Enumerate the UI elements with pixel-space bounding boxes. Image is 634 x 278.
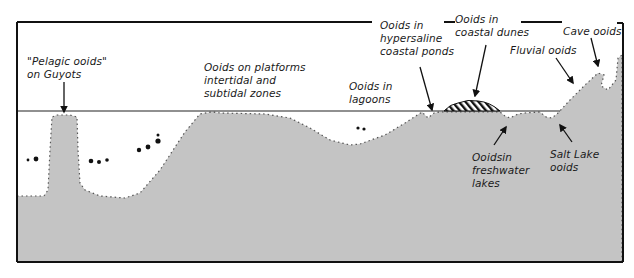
label-lagoon-ooids: Ooids in lagoons (349, 80, 392, 106)
ooid-settings-diagram: "Pelagic ooids" on Guyots Ooids on platf… (0, 0, 634, 278)
coastal-dune (444, 100, 500, 111)
label-salt-lake-ooids: Salt Lake ooids (550, 148, 599, 174)
label-freshwater-lake-ooids: Ooidsin freshwater lakes (472, 151, 530, 190)
cross-section-figure (0, 0, 634, 278)
label-fluvial-ooids: Fluvial ooids (510, 44, 577, 57)
label-pelagic-ooids: "Pelagic ooids" on Guyots (27, 55, 107, 81)
label-platform-ooids: Ooids on platforms intertidal and subtid… (204, 61, 306, 100)
label-cave-ooids: Cave ooids (563, 25, 622, 38)
label-hypersaline-ooids: Ooids in hypersaline coastal ponds (380, 19, 454, 58)
label-dune-ooids: Ooids in coastal dunes (455, 13, 529, 39)
